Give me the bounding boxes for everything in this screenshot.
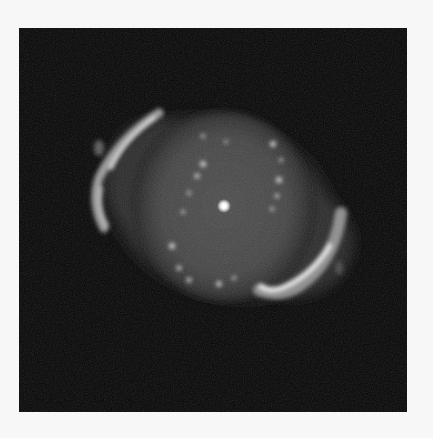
film-grain bbox=[19, 28, 407, 412]
central-star bbox=[217, 199, 231, 213]
nebula-image bbox=[19, 28, 407, 412]
nebula-photo bbox=[19, 28, 407, 412]
